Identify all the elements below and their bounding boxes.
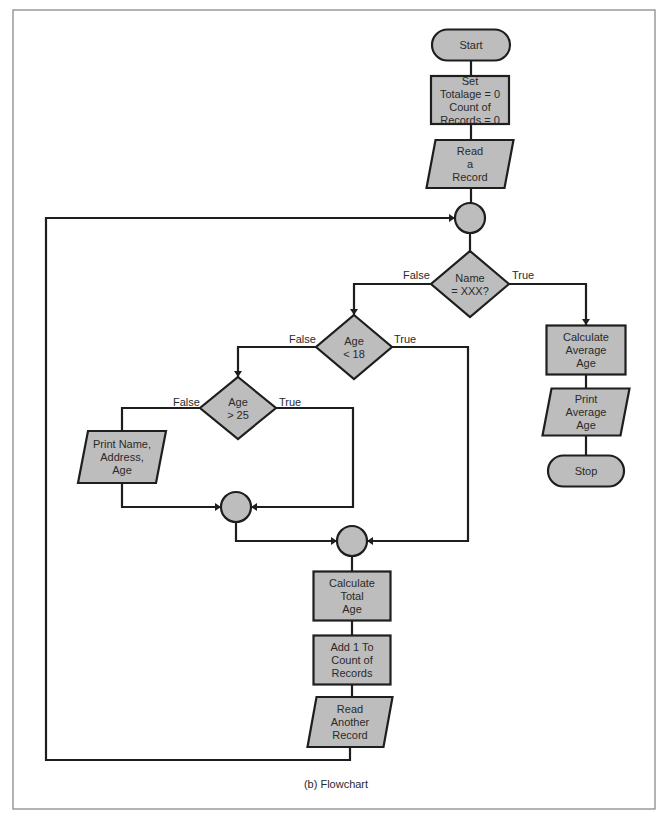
flowchart-shapes: StartSetTotalage = 0Count ofRecords = 0R… — [78, 30, 630, 748]
node-name-check: Name= XXX? — [431, 251, 509, 317]
connector-shape — [221, 492, 251, 522]
node-age-gt-25: Age> 25 — [200, 377, 276, 439]
node-label-line: Age — [228, 396, 248, 408]
node-label-line: Count of — [331, 654, 374, 666]
connector-shape — [337, 526, 367, 556]
edge-label-name-true: True — [512, 269, 534, 281]
edge-gt25-false — [122, 408, 200, 431]
node-read-record: ReadaRecord — [427, 140, 514, 188]
node-label-line: Total — [340, 590, 363, 602]
node-label-line: Read — [457, 145, 483, 157]
node-label-line: Record — [452, 171, 487, 183]
edge-name-true — [509, 284, 586, 325]
node-label-line: Records — [332, 667, 373, 679]
node-label-line: Records = 0 — [440, 114, 500, 126]
edge-label-lt18-false: False — [289, 333, 316, 345]
node-label-line: Set — [462, 75, 479, 87]
node-label-line: Print Name, — [93, 438, 151, 450]
node-junction-top — [455, 203, 485, 233]
edge-loop-back — [46, 218, 455, 760]
node-label-line: > 25 — [227, 409, 249, 421]
node-label-line: a — [467, 158, 474, 170]
node-label-line: Print — [575, 393, 598, 405]
node-label-line: = XXX? — [451, 285, 489, 297]
node-label-line: Average — [566, 406, 607, 418]
node-read-another: ReadAnotherRecord — [308, 697, 393, 747]
node-label-line: Address, — [100, 451, 143, 463]
node-label-line: Average — [566, 344, 607, 356]
arrowhead-name-true — [582, 319, 590, 325]
edge-lt18-false — [238, 347, 316, 377]
node-label-line: Calculate — [329, 577, 375, 589]
edge-label-gt25-false: False — [173, 396, 200, 408]
edge-gt25-true — [251, 408, 353, 507]
node-label-line: Stop — [575, 465, 598, 477]
node-print-average: PrintAverageAge — [543, 389, 630, 436]
node-label-line: Age — [576, 357, 596, 369]
edge-label-lt18-true: True — [394, 333, 416, 345]
node-label-line: Name — [455, 272, 484, 284]
edge-junctionmid-junctionlow — [236, 522, 337, 541]
figure-caption: (b) Flowchart — [304, 778, 368, 790]
node-label-line: Another — [331, 716, 370, 728]
node-label-line: Add 1 To — [330, 641, 373, 653]
node-label-line: Age — [576, 419, 596, 431]
node-label-line: Calculate — [563, 331, 609, 343]
node-label-line: < 18 — [343, 348, 365, 360]
node-label-line: Age — [344, 335, 364, 347]
node-label-line: Read — [337, 703, 363, 715]
node-label-line: Start — [459, 39, 482, 51]
node-calc-average: CalculateAverageAge — [547, 326, 626, 375]
node-label-line: Age — [112, 464, 132, 476]
edge-print-junction — [122, 483, 221, 507]
node-label-line: Age — [342, 603, 362, 615]
connector-shape — [455, 203, 485, 233]
node-label-line: Record — [332, 729, 367, 741]
node-print-name: Print Name,Address,Age — [78, 431, 166, 483]
node-junction-mid — [221, 492, 251, 522]
node-age-lt-18: Age< 18 — [316, 315, 392, 379]
node-label-line: Totalage = 0 — [440, 88, 500, 100]
node-calc-total: CalculateTotalAge — [314, 572, 391, 621]
edge-label-gt25-true: True — [279, 396, 301, 408]
edge-name-false — [354, 284, 431, 315]
node-add-count: Add 1 ToCount ofRecords — [314, 636, 391, 685]
edge-lt18-true — [367, 347, 468, 541]
edge-label-name-false: False — [403, 269, 430, 281]
node-label-line: Count of — [449, 101, 492, 113]
node-start: Start — [432, 30, 510, 61]
flowchart-canvas: StartSetTotalage = 0Count ofRecords = 0R… — [0, 0, 671, 814]
node-stop: Stop — [548, 456, 624, 487]
node-init: SetTotalage = 0Count ofRecords = 0 — [431, 75, 509, 126]
node-junction-low — [337, 526, 367, 556]
